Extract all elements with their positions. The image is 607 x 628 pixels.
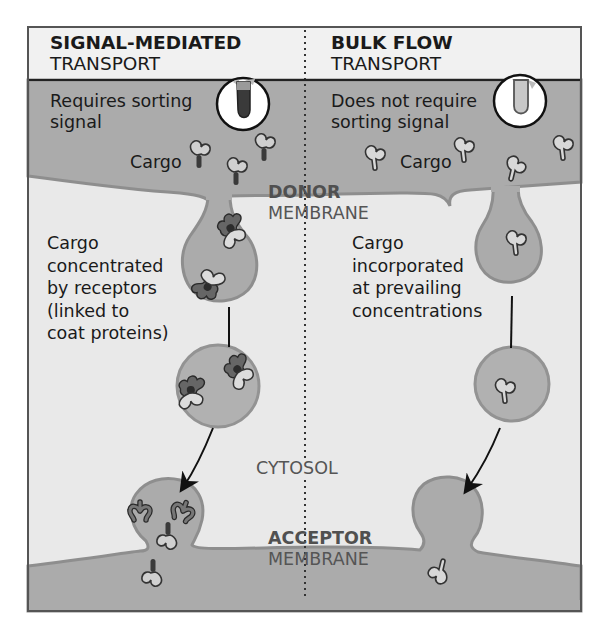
right-connector-line [511,296,512,348]
right-requirement-text: Does not require sorting signal [331,91,477,133]
cytosol-label: CYTOSOL [254,458,340,479]
cargo-without-sorting-signal-icon [494,75,546,127]
acceptor-membrane-label: ACCEPTOR MEMBRANE [268,528,372,570]
left-title-regular: TRANSPORT [50,53,241,74]
donor-membrane-label: DONOR MEMBRANE [268,182,388,224]
right-cargo-label: Cargo [400,152,452,173]
left-vesicle-caption: Cargo concentrated by receptors (linked … [47,232,169,345]
left-requirement-text: Requires sorting signal [50,91,192,133]
vesicular-transport-diagram: SIGNAL-MEDIATED TRANSPORT BULK FLOW TRAN… [0,0,607,628]
right-title-regular: TRANSPORT [331,53,453,74]
right-title-bold: BULK FLOW [331,32,453,53]
left-cargo-label: Cargo [130,152,182,173]
left-title-bold: SIGNAL-MEDIATED [50,32,241,53]
right-panel-title: BULK FLOW TRANSPORT [331,32,453,74]
left-panel-title: SIGNAL-MEDIATED TRANSPORT [50,32,241,74]
right-vesicle-caption: Cargo incorporated at prevailing concent… [352,232,482,322]
cargo-with-sorting-signal-icon [217,78,269,130]
